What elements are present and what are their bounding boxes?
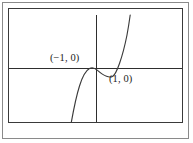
label-left-intercept: (−1, 0) [50, 52, 79, 63]
cubic-curve-path [71, 15, 130, 123]
label-right-intercept: (1, 0) [109, 73, 132, 84]
plot-panel: (−1, 0) (1, 0) [8, 8, 183, 123]
figure-root: (−1, 0) (1, 0) [0, 0, 193, 143]
cubic-curve [9, 9, 183, 123]
